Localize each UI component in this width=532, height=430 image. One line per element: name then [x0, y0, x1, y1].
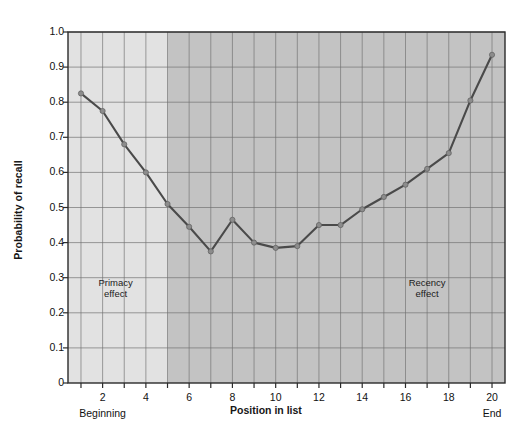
annotation-line-2: effect: [392, 288, 462, 300]
x-axis-title-text: Position in list: [230, 404, 302, 416]
x-axis-tick-label: 4: [131, 391, 161, 403]
annotation-line-1: Recency: [392, 277, 462, 289]
annotation-line-2: effect: [81, 288, 151, 300]
serial-position-chart: Probability of recall 1.00.90.80.70.60.5…: [0, 0, 532, 430]
x-axis-tick-label: 16: [390, 391, 420, 403]
x-axis-tick-label: 20: [477, 391, 507, 403]
x-axis-tick-label: 6: [174, 391, 204, 403]
data-point-marker: [468, 98, 473, 103]
data-point-marker: [187, 224, 192, 229]
data-point-marker: [165, 201, 170, 206]
data-point-marker: [403, 182, 408, 187]
data-point-marker: [381, 194, 386, 199]
data-point-marker: [338, 222, 343, 227]
x-axis-tick-label: 2: [88, 391, 118, 403]
data-point-marker: [122, 142, 127, 147]
x-axis-tick-label: 12: [304, 391, 334, 403]
plot-area: [0, 0, 532, 430]
data-point-marker: [78, 91, 83, 96]
annotation-label: Primacyeffect: [81, 277, 151, 300]
data-point-marker: [295, 244, 300, 249]
data-point-marker: [251, 240, 256, 245]
data-point-marker: [489, 52, 494, 57]
x-axis-tick-label: 10: [261, 391, 291, 403]
data-point-marker: [425, 166, 430, 171]
data-point-marker: [100, 108, 105, 113]
data-point-marker: [360, 207, 365, 212]
x-axis-tick-label: 8: [217, 391, 247, 403]
data-point-marker: [273, 245, 278, 250]
annotation-label: Recencyeffect: [392, 277, 462, 300]
data-point-marker: [208, 249, 213, 254]
data-point-marker: [316, 222, 321, 227]
data-point-marker: [143, 170, 148, 175]
data-point-marker: [446, 150, 451, 155]
x-axis-title: Position in list: [0, 404, 532, 416]
annotation-line-1: Primacy: [81, 277, 151, 289]
x-axis-tick-label: 18: [434, 391, 464, 403]
x-axis-tick-label: 14: [347, 391, 377, 403]
data-point-marker: [230, 217, 235, 222]
